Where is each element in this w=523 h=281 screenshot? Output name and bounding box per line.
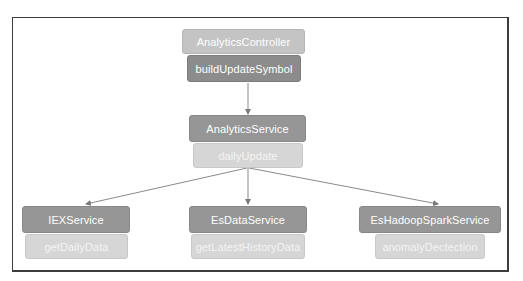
iex-service-label: IEXService bbox=[48, 214, 103, 226]
analytics-service-label: AnalyticsService bbox=[206, 123, 288, 135]
iex-service-node: IEXService bbox=[22, 206, 130, 233]
es-hadoop-spark-service-node: EsHadoopSparkService bbox=[359, 206, 501, 233]
anomaly-detection-node: anomalyDectection bbox=[375, 234, 485, 259]
es-data-service-node: EsDataService bbox=[189, 206, 307, 233]
edge-service-to-eshadoop bbox=[249, 168, 438, 204]
daily-update-node: dailyUpdate bbox=[193, 143, 303, 168]
build-update-symbol-node: buildUpdateSymbol bbox=[187, 55, 301, 82]
get-daily-data-label: getDailyData bbox=[44, 241, 108, 253]
get-latest-history-data-label: getLatestHistoryData bbox=[196, 241, 301, 253]
get-latest-history-data-node: getLatestHistoryData bbox=[191, 234, 305, 259]
daily-update-label: dailyUpdate bbox=[218, 150, 277, 162]
analytics-controller-label: AnalyticsController bbox=[197, 36, 291, 48]
analytics-service-node: AnalyticsService bbox=[189, 115, 306, 142]
anomaly-detection-label: anomalyDectection bbox=[382, 241, 477, 253]
get-daily-data-node: getDailyData bbox=[25, 234, 128, 259]
analytics-controller-node: AnalyticsController bbox=[182, 29, 305, 54]
es-hadoop-spark-service-label: EsHadoopSparkService bbox=[371, 214, 490, 226]
edge-service-to-iex bbox=[86, 168, 247, 204]
build-update-symbol-label: buildUpdateSymbol bbox=[195, 63, 292, 75]
es-data-service-label: EsDataService bbox=[211, 214, 285, 226]
